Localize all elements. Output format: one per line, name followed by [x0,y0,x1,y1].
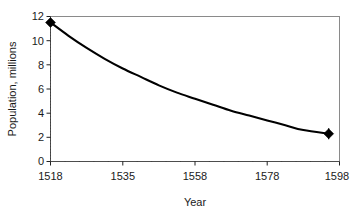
y-tick-label-10: 10 [32,35,44,47]
x-tick-label-1518: 1518 [38,170,62,182]
y-tick-label-12: 12 [32,10,44,22]
y-tick-label-0: 0 [38,155,44,167]
x-axis-tick-labels: 1518 1535 1558 1578 1598 [38,170,349,182]
y-tick-label-6: 6 [38,83,44,95]
x-tick-label-1558: 1558 [183,170,207,182]
x-axis-major-ticks [51,162,340,166]
y-axis-title: Population, millions [6,41,18,136]
y-tick-label-2: 2 [38,131,44,143]
y-axis-tick-labels: 0 2 4 6 8 10 12 [32,10,44,167]
x-tick-label-1535: 1535 [111,170,135,182]
x-tick-label-1598: 1598 [325,170,349,182]
chart-container: 0 2 4 6 8 10 12 [0,0,357,215]
y-tick-label-8: 8 [38,59,44,71]
y-axis-major-ticks [47,17,51,162]
population-decline-line-chart: 0 2 4 6 8 10 12 [0,0,357,215]
x-axis-title: Year [184,196,207,208]
data-series-population-render [51,17,340,161]
x-tick-label-1578: 1578 [255,170,279,182]
y-tick-label-4: 4 [38,107,44,119]
curve-clear-layer [51,17,339,161]
